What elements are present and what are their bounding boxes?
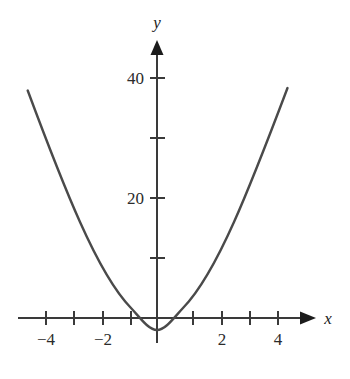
x-tick-label-neg4: −4	[37, 330, 56, 349]
x-tick-label-neg2: −2	[94, 330, 112, 349]
x-tick-label-pos4: 4	[274, 330, 283, 349]
y-axis-label: y	[151, 13, 161, 32]
y-tick-label-20: 20	[127, 189, 144, 208]
x-axis-arrow-icon	[300, 312, 316, 325]
y-tick-label-40: 40	[127, 69, 144, 88]
x-tick-label-pos2: 2	[218, 330, 227, 349]
x-axis-label: x	[323, 309, 332, 328]
chart-page: −4 −2 2 4 20 40 y x	[0, 0, 350, 379]
y-axis-arrow-icon	[151, 40, 164, 55]
parabola-chart: −4 −2 2 4 20 40 y x	[0, 0, 350, 379]
